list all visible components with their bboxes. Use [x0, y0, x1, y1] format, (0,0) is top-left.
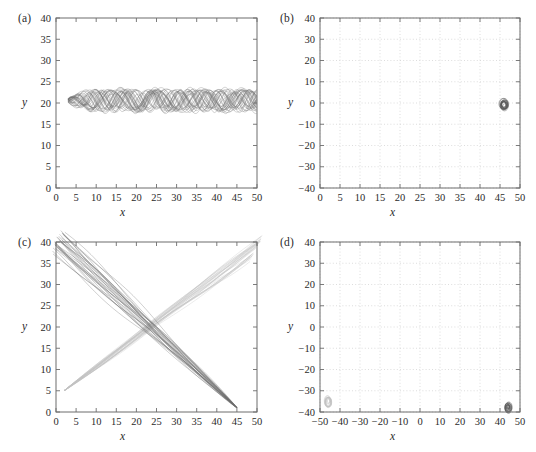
svg-text:0: 0	[46, 407, 51, 418]
svg-text:0: 0	[417, 416, 422, 427]
svg-text:−20: −20	[372, 416, 388, 427]
svg-text:30: 30	[305, 258, 316, 269]
svg-text:−30: −30	[299, 385, 315, 396]
svg-text:40: 40	[212, 416, 223, 427]
panel-a-label: (a)	[18, 12, 31, 24]
svg-text:10: 10	[91, 416, 102, 427]
svg-text:20: 20	[131, 192, 142, 203]
svg-text:−10: −10	[299, 343, 315, 354]
panel-a-x-axis-title: x	[120, 206, 125, 218]
svg-text:5: 5	[46, 161, 51, 172]
svg-text:−20: −20	[299, 140, 315, 151]
svg-text:30: 30	[41, 279, 52, 290]
svg-text:40: 40	[41, 13, 52, 24]
svg-text:20: 20	[41, 322, 52, 333]
svg-text:25: 25	[151, 416, 162, 427]
svg-text:5: 5	[73, 416, 78, 427]
svg-text:35: 35	[41, 34, 52, 45]
svg-text:40: 40	[305, 237, 316, 248]
svg-text:25: 25	[41, 76, 52, 87]
panel-a: (a) y x 05101520253035404550051015202530…	[0, 0, 270, 226]
svg-text:−20: −20	[299, 364, 315, 375]
panel-c-label: (c)	[18, 236, 31, 248]
panel-b-y-axis-title: y	[288, 96, 293, 108]
figure-four-panel-trajectories: (a) y x 05101520253035404550051015202530…	[0, 0, 536, 452]
svg-text:30: 30	[171, 192, 182, 203]
svg-text:−30: −30	[352, 416, 368, 427]
svg-text:40: 40	[305, 13, 316, 24]
svg-text:15: 15	[41, 343, 52, 354]
svg-text:40: 40	[495, 416, 506, 427]
svg-text:20: 20	[131, 416, 142, 427]
panel-b-plot-area: 05101520253035404550403020100−10−20−30−4…	[266, 0, 536, 226]
panel-a-plot-area: 051015202530354045500510152025303540	[0, 0, 270, 226]
svg-text:40: 40	[41, 237, 52, 248]
svg-text:0: 0	[53, 192, 58, 203]
svg-text:25: 25	[41, 300, 52, 311]
svg-text:45: 45	[232, 192, 243, 203]
svg-text:20: 20	[41, 98, 52, 109]
panel-d-plot-area: −50−40−30−20−1001020304050403020100−10−2…	[266, 226, 536, 452]
svg-text:35: 35	[191, 416, 202, 427]
svg-text:−40: −40	[299, 407, 315, 418]
panel-b-label: (b)	[280, 12, 294, 24]
svg-text:15: 15	[375, 192, 386, 203]
svg-text:0: 0	[53, 416, 58, 427]
svg-text:30: 30	[171, 416, 182, 427]
svg-text:20: 20	[455, 416, 466, 427]
panel-d: (d) y x −50−40−30−20−1001020304050403020…	[266, 226, 536, 452]
svg-text:15: 15	[111, 192, 122, 203]
svg-text:50: 50	[252, 192, 263, 203]
svg-text:−40: −40	[332, 416, 348, 427]
panel-b-x-axis-title: x	[390, 206, 395, 218]
svg-text:−40: −40	[299, 183, 315, 194]
svg-text:5: 5	[73, 192, 78, 203]
svg-text:−10: −10	[392, 416, 408, 427]
plot-content	[499, 98, 509, 111]
svg-text:−10: −10	[299, 119, 315, 130]
plot-content	[53, 231, 263, 408]
svg-text:10: 10	[91, 192, 102, 203]
svg-text:40: 40	[212, 192, 223, 203]
panel-d-y-axis-title: y	[288, 320, 293, 332]
svg-text:20: 20	[395, 192, 406, 203]
svg-text:30: 30	[435, 192, 446, 203]
svg-text:10: 10	[355, 192, 366, 203]
plot-content	[68, 87, 257, 113]
panel-c-plot-area: 051015202530354045500510152025303540	[0, 226, 270, 452]
plot-content	[324, 396, 512, 414]
svg-text:40: 40	[475, 192, 486, 203]
svg-text:10: 10	[305, 300, 316, 311]
svg-text:30: 30	[41, 55, 52, 66]
panel-c: (c) y x 05101520253035404550051015202530…	[0, 226, 270, 452]
svg-text:15: 15	[41, 119, 52, 130]
svg-text:35: 35	[41, 258, 52, 269]
panel-a-y-axis-title: y	[22, 96, 27, 108]
svg-text:10: 10	[41, 364, 52, 375]
svg-text:20: 20	[305, 55, 316, 66]
svg-text:10: 10	[305, 76, 316, 87]
panel-c-x-axis-title: x	[120, 430, 125, 442]
svg-text:50: 50	[515, 416, 526, 427]
panel-d-label: (d)	[280, 236, 294, 248]
svg-text:−30: −30	[299, 161, 315, 172]
svg-text:50: 50	[252, 416, 263, 427]
svg-text:0: 0	[46, 183, 51, 194]
panel-b: (b) y x 05101520253035404550403020100−10…	[266, 0, 536, 226]
panel-c-y-axis-title: y	[22, 320, 27, 332]
svg-text:0: 0	[310, 98, 315, 109]
svg-text:35: 35	[191, 192, 202, 203]
svg-text:30: 30	[475, 416, 486, 427]
svg-text:−50: −50	[312, 416, 328, 427]
svg-text:25: 25	[415, 192, 426, 203]
svg-text:30: 30	[305, 34, 316, 45]
svg-text:5: 5	[337, 192, 342, 203]
svg-text:25: 25	[151, 192, 162, 203]
svg-text:0: 0	[310, 322, 315, 333]
svg-text:45: 45	[495, 192, 506, 203]
svg-text:0: 0	[317, 192, 322, 203]
svg-text:45: 45	[232, 416, 243, 427]
svg-text:20: 20	[305, 279, 316, 290]
svg-text:50: 50	[515, 192, 526, 203]
svg-text:15: 15	[111, 416, 122, 427]
